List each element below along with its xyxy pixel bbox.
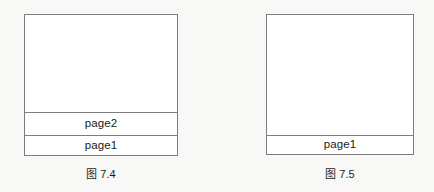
empty-space-region-right [267, 15, 413, 135]
memory-stack-box-right: page1 [266, 14, 414, 155]
stack-frame-label-page1-right: page1 [324, 139, 356, 151]
figure-canvas: page2 page1 图 7.4 page1 图 7.5 [0, 0, 434, 192]
figure-7-4: page2 page1 图 7.4 [24, 14, 178, 186]
figure-caption-7-5: 图 7.5 [266, 169, 414, 180]
stack-frame-page1: page1 [25, 135, 177, 155]
stack-frame-label-page2: page2 [85, 118, 117, 130]
figure-caption-7-4: 图 7.4 [24, 169, 178, 180]
figure-7-5: page1 图 7.5 [266, 14, 414, 186]
stack-frame-label-page1: page1 [85, 140, 117, 152]
empty-space-region-left [25, 15, 177, 112]
memory-stack-box-left: page2 page1 [24, 14, 178, 156]
stack-frame-page1-right: page1 [267, 135, 413, 154]
stack-frame-page2: page2 [25, 112, 177, 135]
